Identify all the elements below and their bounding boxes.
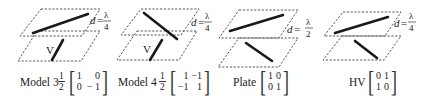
- spacing-d: d: [191, 16, 197, 28]
- matrix-cells: 1 0 0 1: [268, 70, 281, 92]
- matrix-cells: 0 1 1 0: [376, 70, 389, 92]
- right-bracket: ]: [102, 68, 108, 94]
- spacing-d: d: [90, 14, 96, 26]
- panel-model-4: V d = λ 4: [117, 9, 212, 60]
- left-bracket: [: [368, 68, 374, 94]
- lower-label-v: V: [143, 43, 151, 55]
- lower-label-v: V: [46, 44, 54, 56]
- left-bracket: [: [69, 68, 75, 94]
- spacing-d: d: [287, 23, 293, 35]
- spacing-eq: =: [198, 16, 204, 28]
- panel-label-model-3: Model 3: [20, 76, 59, 88]
- spacing-den: 2: [306, 29, 311, 39]
- right-bracket: ]: [204, 68, 210, 94]
- matrix-plate: [ 1 0 0 1 ]: [258, 68, 291, 94]
- panel-label-plate: Plate: [233, 76, 256, 88]
- matrix-cells: 1 0 0 − 1: [77, 70, 100, 92]
- spacing-num: λ: [306, 17, 311, 27]
- spacing-den: 4: [104, 22, 109, 32]
- left-bracket: [: [170, 68, 176, 94]
- spacing-eq: =: [401, 17, 407, 29]
- matrix-cells: 1 −1 −1 1: [178, 70, 202, 92]
- lower-dipole: [150, 40, 162, 60]
- spacing-den: 4: [205, 23, 210, 33]
- panel-label-hv: HV: [349, 76, 366, 88]
- scalar-fraction: 1 2: [159, 71, 166, 92]
- right-bracket: ]: [391, 68, 397, 94]
- panel-hv: d = λ 4: [323, 11, 416, 60]
- matrix-model-4: 1 2 [ 1 −1 −1 1 ]: [159, 68, 212, 94]
- lower-dipole: [246, 43, 272, 61]
- spacing-den: 4: [409, 23, 414, 33]
- spacing-d: d: [394, 17, 400, 29]
- spacing-eq: =: [97, 14, 103, 26]
- upper-dipole: [33, 14, 88, 33]
- lower-dipole: [355, 41, 377, 58]
- spacing-num: λ: [409, 11, 414, 21]
- panel-model-3: V d = λ 4: [18, 9, 111, 61]
- left-bracket: [: [260, 68, 266, 94]
- spacing-eq: =: [294, 23, 300, 35]
- matrix-hv: [ 0 1 1 0 ]: [366, 68, 399, 94]
- upper-dipole: [335, 17, 388, 33]
- matrix-model-3: 1 2 [ 1 0 0 − 1 ]: [58, 68, 110, 94]
- scalar-fraction: 1 2: [58, 71, 65, 92]
- panel-label-model-4: Model 4: [118, 76, 157, 88]
- upper-dipole: [230, 15, 283, 31]
- spacing-num: λ: [104, 10, 109, 20]
- right-bracket: ]: [283, 68, 289, 94]
- panel-plate: d = λ 2: [218, 10, 313, 67]
- spacing-num: λ: [205, 11, 210, 21]
